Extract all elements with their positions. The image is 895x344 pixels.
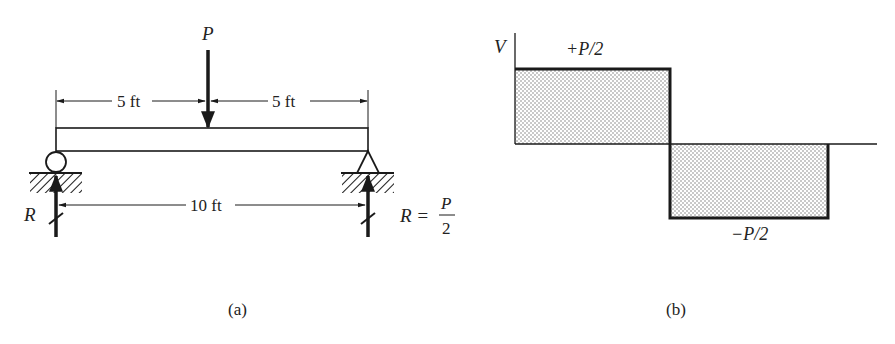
negative-shear-region: [670, 144, 828, 218]
pin-support-icon: [357, 151, 379, 173]
caption-a: (a): [228, 300, 247, 319]
negative-shear-label: −P/2: [731, 224, 768, 244]
load-label: P: [201, 23, 214, 44]
right-span-label: 5 ft: [272, 92, 295, 111]
beam-diagram: P 5 ft 5 ft R 10 ft R =: [23, 23, 455, 319]
roller-support-icon: [46, 152, 66, 172]
v-axis-label: V: [494, 36, 508, 57]
left-reaction-label: R: [23, 204, 36, 225]
caption-b: (b): [666, 300, 686, 319]
beam: [56, 128, 368, 151]
left-span-label: 5 ft: [117, 92, 140, 111]
positive-shear-label: +P/2: [566, 39, 603, 59]
total-span-label: 10 ft: [190, 196, 222, 215]
positive-shear-region: [515, 69, 670, 144]
shear-diagram: V +P/2 −P/2 (b): [494, 33, 877, 319]
reaction-numerator: P: [440, 194, 451, 213]
right-reaction-label: R =: [399, 205, 429, 226]
reaction-denominator: 2: [442, 219, 451, 238]
